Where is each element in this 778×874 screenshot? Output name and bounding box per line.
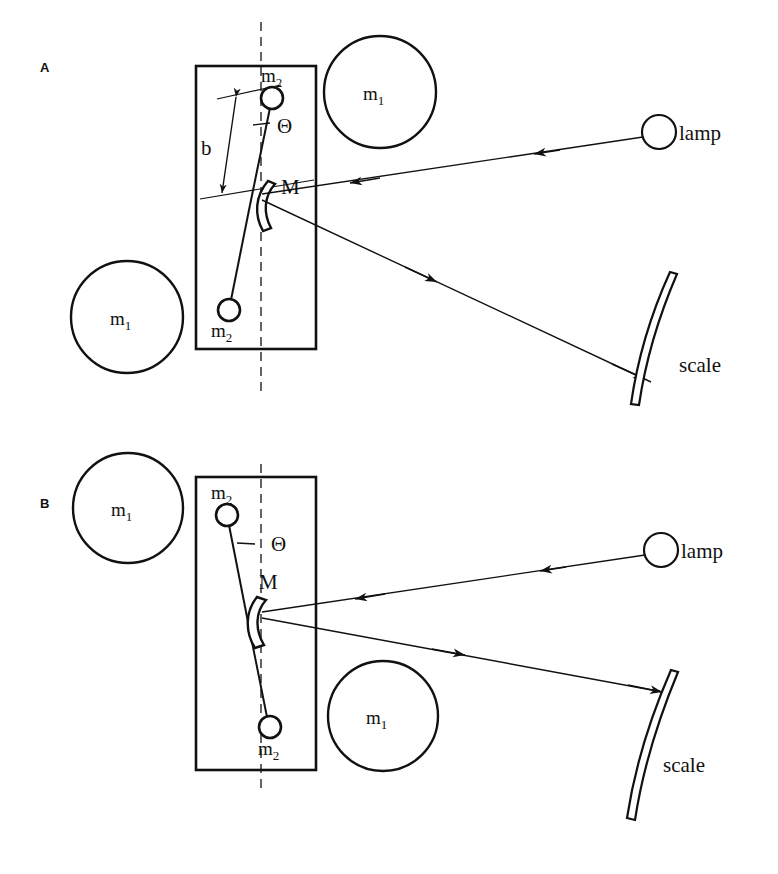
- panel-b-mirror: [248, 597, 266, 648]
- panel-b-incident-ray: [262, 555, 645, 612]
- mass-label-m2-bottom: m2: [258, 738, 279, 763]
- panel-b-reflected-ray-arrow-end: [628, 685, 662, 692]
- lamp-icon: [644, 533, 678, 567]
- panel-b-mass-m1-upper: m1: [73, 453, 183, 563]
- mass-circle-m2: [216, 504, 238, 526]
- mass-circle-m1: [71, 261, 183, 373]
- mirror-strip: [248, 597, 266, 648]
- panel-b-scale: scale: [627, 670, 705, 820]
- panel-a-label-b: b: [201, 136, 212, 160]
- panel-a-label-mirror: M: [281, 175, 300, 199]
- mass-circle-m2: [261, 87, 283, 109]
- panel-a-scale: scale: [631, 272, 721, 405]
- panel-a-label-lamp: lamp: [679, 121, 721, 145]
- panel-a-lamp: lamp: [642, 115, 721, 149]
- lamp-icon: [642, 115, 676, 149]
- panel-b-label-scale: scale: [663, 753, 705, 777]
- panel-a-reflected-ray-arrow-mid: [405, 267, 437, 282]
- panel-b-mass-m1-lower: m1: [328, 661, 438, 771]
- panel-a-incident-ray: [262, 137, 643, 194]
- panel-b-label-lamp: lamp: [681, 539, 723, 563]
- figure-root: A m1 m1: [0, 0, 778, 874]
- panel-b-reflected-ray-arrow-mid: [432, 649, 465, 655]
- panel-b-torsion-rod-upper: [228, 520, 248, 622]
- mass-circle-m1: [73, 453, 183, 563]
- mass-circle-m1: [328, 661, 438, 771]
- panel-b-lamp: lamp: [644, 533, 723, 567]
- panel-b-incident-ray-arrow-outer: [540, 567, 566, 571]
- panel-a-torsion-rod-lower: [230, 205, 250, 305]
- panel-a-mass-m2-bottom: m2: [211, 299, 240, 345]
- panel-b-mass-m2-bottom: m2: [258, 716, 281, 763]
- mass-circle-m2: [218, 299, 240, 321]
- panel-b-incident-ray-arrow-inner: [355, 594, 385, 599]
- mass-circle-m2: [259, 716, 281, 738]
- panel-a-mass-m2-top: m2: [261, 65, 283, 109]
- panel-a-label-theta: Θ: [277, 114, 292, 138]
- mass-label-m2-top: m2: [211, 482, 232, 507]
- panel-b-label-mirror: M: [259, 570, 278, 594]
- panel-a-dimension-arrow-b: [222, 97, 236, 193]
- panel-a-mass-m1-upper: m1: [324, 36, 436, 148]
- panel-b-reflected-ray: [262, 618, 668, 693]
- panel-b-label-theta: Θ: [271, 532, 286, 556]
- panel-a: A m1 m1: [40, 22, 721, 405]
- mass-circle-m1: [324, 36, 436, 148]
- mass-label-m2-bottom: m2: [211, 320, 232, 345]
- panel-a-reflected-ray: [262, 200, 651, 382]
- torsion-balance-diagram: A m1 m1: [0, 0, 778, 874]
- panel-b: B m1 m1: [40, 453, 723, 820]
- panel-b-label: B: [40, 496, 49, 511]
- panel-b-theta-tick: [237, 543, 255, 544]
- panel-a-mass-m1-lower: m1: [71, 261, 183, 373]
- panel-a-incident-ray-arrow-outer: [534, 150, 560, 154]
- panel-b-mass-m2-top: m2: [211, 482, 238, 526]
- panel-a-label-scale: scale: [679, 353, 721, 377]
- scale-strip: [627, 670, 678, 820]
- panel-a-label: A: [40, 60, 50, 75]
- scale-strip: [631, 272, 677, 405]
